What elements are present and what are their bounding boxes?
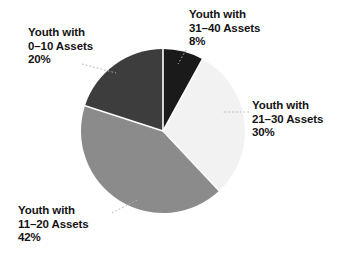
pie-label-0-10-assets: Youth with 0–10 Assets 20% — [28, 26, 93, 67]
label-line-category-2: 21–30 Assets — [252, 113, 323, 127]
label-line-category-2: 31–40 Assets — [189, 22, 260, 36]
pie-label-21-30-assets: Youth with 21–30 Assets 30% — [252, 99, 323, 140]
label-line-category-2: 11–20 Assets — [18, 218, 89, 232]
label-line-value: 8% — [189, 35, 260, 49]
label-line-value: 30% — [252, 126, 323, 140]
label-line-value: 20% — [28, 53, 93, 67]
pie-chart: Youth with 31–40 Assets 8% Youth with 0–… — [0, 0, 347, 263]
label-line-category-1: Youth with — [252, 99, 323, 113]
pie-label-31-40-assets: Youth with 31–40 Assets 8% — [189, 8, 260, 49]
label-line-category-1: Youth with — [18, 204, 89, 218]
pie-label-11-20-assets: Youth with 11–20 Assets 42% — [18, 204, 89, 245]
label-line-category-2: 0–10 Assets — [28, 40, 93, 54]
label-line-category-1: Youth with — [189, 8, 260, 22]
label-line-value: 42% — [18, 231, 89, 245]
label-line-category-1: Youth with — [28, 26, 93, 40]
